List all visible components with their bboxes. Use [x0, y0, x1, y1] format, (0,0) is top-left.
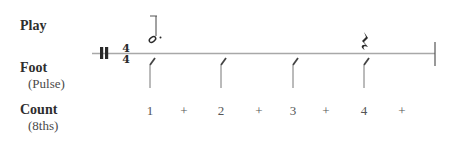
count-and-4: + [398, 103, 405, 119]
foot-tap-1 [150, 58, 155, 88]
count-and-1: + [180, 103, 187, 119]
rhythm-staff: 4 4 [0, 0, 457, 141]
foot-tap-2 [221, 58, 226, 88]
count-2: 2 [218, 103, 225, 119]
foot-tap-marks [150, 58, 369, 88]
time-signature: 4 4 [122, 42, 130, 66]
quarter-rest-icon [362, 32, 368, 50]
foot-tap-3 [293, 58, 298, 88]
foot-tap-4 [364, 58, 369, 88]
count-1: 1 [147, 103, 154, 119]
count-4: 4 [361, 103, 368, 119]
count-and-3: + [322, 103, 329, 119]
count-and-2: + [255, 103, 262, 119]
time-signature-bottom: 4 [122, 53, 130, 66]
count-3: 3 [290, 103, 297, 119]
dotted-half-note-icon [148, 16, 161, 43]
